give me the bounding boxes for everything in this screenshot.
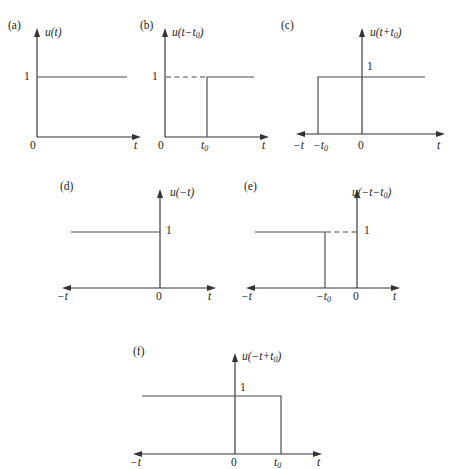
panel-f-plot [0, 0, 452, 469]
panel-f-step-curve [142, 396, 281, 454]
figure-canvas: (a) u(t) 1 0 t (b) u(t−t0) 1 0 t0 t [0, 0, 452, 469]
panel-f-x-axis-arrow-right [313, 451, 322, 457]
panel-f-x-axis-arrow-left [133, 451, 142, 457]
panel-f-y-axis-arrow [232, 353, 238, 362]
